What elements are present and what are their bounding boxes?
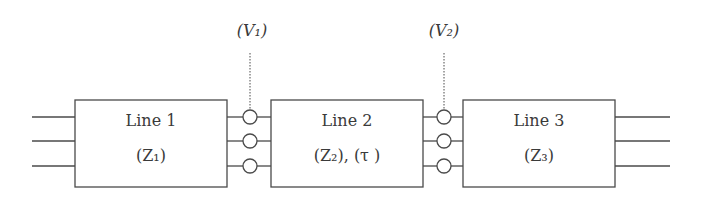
output-conductors <box>615 117 670 166</box>
line-1-title: Line 1 <box>126 111 177 130</box>
node-v1-terminals <box>243 110 257 173</box>
line-1-param: (Z₁) <box>136 146 166 165</box>
node-v2-terminals <box>437 110 451 173</box>
line-2-title: Line 2 <box>322 111 373 130</box>
input-conductors <box>32 117 75 166</box>
line-3-param: (Z₃) <box>524 146 554 165</box>
node-v1-label: (V₁) <box>237 21 267 40</box>
line-3-title: Line 3 <box>514 111 565 130</box>
transmission-line-diagram: (V₁) (V₂) Line 1 (Z₁) Line 2 (Z₂), (τ ) … <box>0 0 707 199</box>
line-2-param: (Z₂), (τ ) <box>314 146 381 165</box>
node-v2-label: (V₂) <box>429 21 459 40</box>
